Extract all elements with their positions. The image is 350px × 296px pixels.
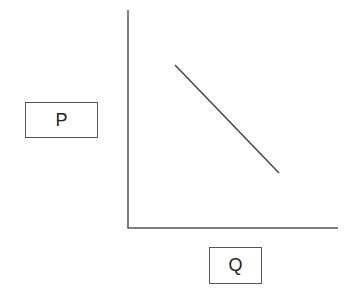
x-axis-label: Q [228, 255, 242, 276]
demand-diagram: P Q [0, 0, 350, 296]
y-axis-label-box: P [25, 102, 98, 138]
y-axis-label: P [55, 110, 67, 131]
demand-curve-line [175, 65, 279, 173]
diagram-canvas [0, 0, 350, 296]
x-axis-label-box: Q [209, 247, 262, 284]
